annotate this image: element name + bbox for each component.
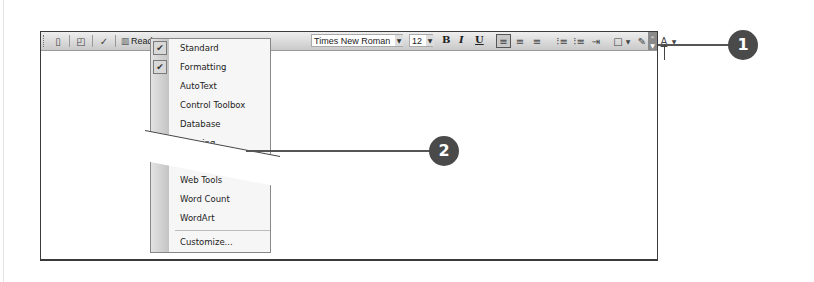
bold-button[interactable]: B [442, 34, 450, 45]
indent-icon[interactable]: ⇥ [589, 34, 603, 48]
print-preview-icon[interactable]: ◰ [74, 34, 88, 48]
menu-item-label: Standard [180, 43, 219, 53]
menu-item-label: Control Toolbox [180, 100, 245, 110]
menu-separator [175, 230, 270, 231]
menu-item-word-count[interactable]: Word Count [151, 190, 270, 209]
toolbar-separator [92, 35, 93, 47]
read-icon: ▥ [121, 36, 130, 46]
font-name-field[interactable]: Times New Roman [311, 34, 403, 47]
border-dropdown-icon[interactable]: ▼ [625, 34, 631, 48]
font-dropdown-button[interactable]: ▼ [395, 35, 403, 46]
checkmark-icon: ✔ [153, 41, 167, 55]
callout-badge-1: 1 [728, 30, 758, 60]
center-icon[interactable]: ≡ [513, 34, 527, 48]
menu-item-database[interactable]: Database [151, 115, 270, 134]
menu-item-autotext[interactable]: AutoText [151, 77, 270, 96]
menu-item-formatting[interactable]: ✔Formatting [151, 58, 270, 77]
callout-badge-2: 2 [429, 136, 459, 166]
toolbar-separator [69, 35, 70, 47]
document-window [40, 31, 658, 261]
menu-item-label: Formatting [180, 62, 226, 72]
menu-item-standard[interactable]: ✔Standard [151, 39, 270, 58]
highlight-icon[interactable]: ✎ [635, 34, 649, 48]
read-button[interactable]: ▥ Read [121, 36, 153, 46]
checkmark-icon: ✔ [153, 60, 167, 74]
border-icon[interactable]: □ [611, 34, 625, 48]
align-right-icon[interactable]: ≡ [530, 34, 544, 48]
menu-item-label: Web Tools [180, 175, 222, 185]
menu-item-control-toolbox[interactable]: Control Toolbox [151, 96, 270, 115]
toolbar-grip[interactable] [43, 35, 47, 47]
menu-item-customize[interactable]: Customize... [151, 233, 270, 252]
page-edge [3, 0, 4, 282]
menu-item-label: AutoText [180, 81, 217, 91]
menu-item-wordart[interactable]: WordArt [151, 209, 270, 228]
callout-line-2 [246, 150, 430, 152]
callout-leader-1 [664, 44, 665, 60]
toolbar-separator [115, 35, 116, 47]
formatting-toolbar: ▯ ◰ ✓ ▥ Read Times New Roman ▼ 12 ▼ B I … [41, 32, 657, 51]
toolbar-options-icon[interactable]: »▼ [648, 32, 657, 50]
spelling-icon[interactable]: ✓ [97, 34, 111, 48]
align-left-icon[interactable]: ≡ [496, 34, 511, 48]
menu-item-label: Database [180, 119, 221, 129]
menu-item-label: WordArt [180, 213, 215, 223]
menu-item-label: Word Count [180, 194, 230, 204]
size-dropdown-button[interactable]: ▼ [426, 35, 434, 46]
bullets-icon[interactable]: ⁝≡ [572, 34, 586, 48]
numbering-icon[interactable]: ⁝≡ [555, 34, 569, 48]
italic-button[interactable]: I [459, 34, 464, 45]
underline-button[interactable]: U [475, 34, 484, 45]
new-document-icon[interactable]: ▯ [51, 34, 65, 48]
callout-line-1 [658, 44, 730, 46]
menu-item-label: Customize... [180, 237, 233, 247]
